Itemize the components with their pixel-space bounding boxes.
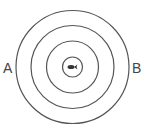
label-a: A xyxy=(3,61,12,75)
fish-icon xyxy=(68,65,78,70)
concentric-diagram xyxy=(0,0,149,136)
label-b: B xyxy=(132,61,141,75)
